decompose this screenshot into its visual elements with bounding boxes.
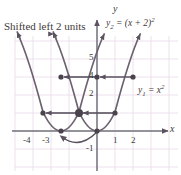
x-axis-label: x [170, 124, 174, 134]
y-axis-label: y [113, 4, 117, 14]
y-tick-2: 2 [89, 88, 94, 98]
y1-exponent: 2 [161, 83, 164, 90]
y-tick-4: 4 [89, 70, 94, 80]
x-tick-2: 2 [131, 135, 136, 145]
marked-points [40, 74, 135, 133]
y2-equals: = [116, 18, 122, 28]
y2-rhs: (x + 2) [125, 18, 151, 28]
graph-figure: Shifted left 2 units y2 = (x + 2)2 y1 = … [0, 0, 181, 175]
shift-arrow-vertex [62, 132, 97, 142]
curve-y2 [18, 34, 104, 131]
y2-exponent: 2 [151, 16, 154, 23]
y2-subscript: 2 [110, 23, 113, 30]
equation-label-y2: y2 = (x + 2)2 [106, 17, 155, 31]
caption-shifted-left: Shifted left 2 units [4, 21, 86, 32]
y1-equals: = [148, 85, 154, 95]
equation-label-y1: y1 = x2 [138, 84, 164, 98]
y-tick-neg1: -1 [86, 143, 94, 153]
y1-subscript: 1 [142, 90, 145, 97]
x-tick-neg4: -4 [23, 135, 31, 145]
y-tick-5: 5 [89, 52, 94, 62]
x-tick-1: 1 [113, 135, 118, 145]
x-tick-neg3: -3 [42, 135, 50, 145]
